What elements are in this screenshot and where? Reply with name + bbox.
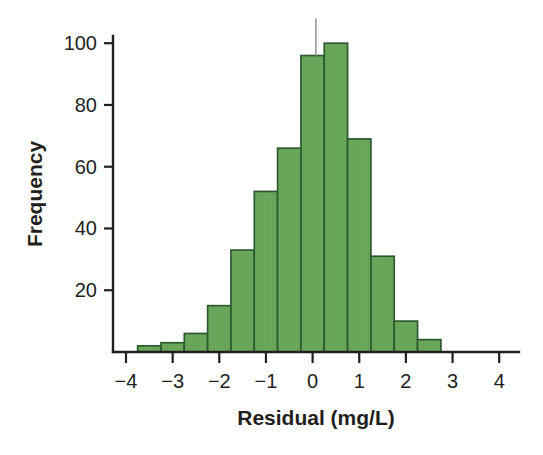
x-tick-label: 4	[494, 370, 505, 392]
x-axis-ticks: −4−3−2−101234	[115, 352, 505, 392]
y-tick-label: 60	[75, 156, 97, 178]
y-axis-ticks: 20406080100	[64, 32, 113, 301]
y-axis-title: Frequency	[23, 141, 46, 248]
x-tick-label: 1	[354, 370, 365, 392]
bar-series	[138, 43, 441, 352]
x-tick-label: −3	[161, 370, 184, 392]
histogram-canvas: 20406080100 −4−3−2−101234 Residual (mg/L…	[0, 0, 543, 455]
x-tick-label: −4	[115, 370, 138, 392]
y-tick-label: 100	[64, 32, 97, 54]
x-tick-label: −2	[208, 370, 231, 392]
y-tick-label: 80	[75, 94, 97, 116]
y-tick-label: 40	[75, 217, 97, 239]
x-tick-label: 2	[400, 370, 411, 392]
x-axis-title: Residual (mg/L)	[237, 406, 395, 429]
histogram-figure: 20406080100 −4−3−2−101234 Residual (mg/L…	[0, 0, 543, 455]
x-tick-label: 0	[307, 370, 318, 392]
x-tick-label: −1	[255, 370, 278, 392]
x-tick-label: 3	[447, 370, 458, 392]
y-tick-label: 20	[75, 279, 97, 301]
